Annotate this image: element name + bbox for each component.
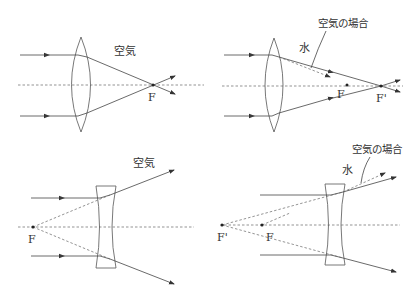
focal-point-air [346, 84, 349, 87]
leader-line [361, 157, 370, 183]
panel-concave-water: F' F 水 空気の場合 [217, 143, 403, 272]
ray-lower-water [250, 98, 331, 116]
convex-lens [265, 38, 283, 132]
ray-upper [60, 170, 174, 198]
focal-label-water: F' [217, 231, 228, 244]
focal-point-air [260, 223, 263, 226]
medium-label: 空気 [114, 44, 136, 58]
focal-point [31, 225, 34, 228]
ray-upper [45, 55, 175, 94]
ray-lower [60, 256, 174, 284]
panel-convex-air: F 空気 [18, 37, 204, 132]
lens-diagram: F 空気 F F' 水 空気の場合 F 空気 [0, 0, 419, 304]
focal-label-water: F' [376, 92, 387, 105]
focal-point-water [220, 223, 223, 226]
leader-line [311, 31, 326, 68]
medium-label: 空気 [133, 156, 155, 170]
panel-convex-water: F F' 水 空気の場合 [222, 17, 403, 132]
medium-label: 水 [342, 164, 353, 177]
air-case-label: 空気の場合 [318, 17, 369, 29]
ray-lower-water [260, 255, 396, 272]
convex-lens [72, 37, 91, 132]
panel-concave-air: F 空気 [18, 156, 194, 284]
air-case-label: 空気の場合 [352, 143, 403, 155]
ray-upper-air [279, 57, 330, 77]
focal-point-water [379, 84, 382, 87]
focal-label: F [148, 91, 156, 104]
focal-label-air: F [266, 231, 274, 244]
ray-upper-water [250, 55, 331, 72]
focal-label-air: F [337, 88, 345, 101]
ray-upper-water [260, 177, 396, 195]
focal-point [151, 83, 154, 86]
focal-label: F [28, 233, 36, 246]
medium-label: 水 [299, 42, 310, 55]
